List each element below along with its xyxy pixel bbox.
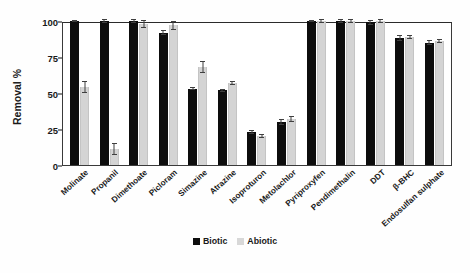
- bar-group: [390, 23, 420, 165]
- bar-biotic: [159, 33, 168, 165]
- error-bar: [321, 19, 322, 23]
- bar-group: [331, 23, 361, 165]
- bar-biotic: [395, 38, 404, 165]
- error-bar: [192, 87, 193, 90]
- bar-group: [213, 23, 243, 165]
- legend-swatch-icon: [237, 238, 244, 245]
- error-bar: [202, 61, 203, 73]
- y-tick-label-25: 25: [32, 125, 58, 136]
- error-bar: [173, 21, 174, 30]
- bar-biotic: [336, 21, 345, 165]
- bar-biotic: [188, 89, 197, 165]
- error-bar: [143, 20, 144, 29]
- legend-item: Abiotic: [237, 236, 277, 246]
- bar-group: [242, 23, 272, 165]
- error-bar: [340, 19, 341, 23]
- error-bar: [104, 19, 105, 23]
- x-tick-label: Molinate: [59, 168, 90, 197]
- bar-biotic: [425, 43, 434, 165]
- bar-biotic: [307, 21, 316, 165]
- bar-group: [183, 23, 213, 165]
- bar-abiotic: [376, 21, 385, 165]
- legend-item: Biotic: [193, 236, 227, 246]
- error-bar: [133, 19, 134, 23]
- error-bar: [74, 20, 75, 23]
- error-bar: [261, 134, 262, 138]
- bar-group: [65, 23, 95, 165]
- error-bar: [439, 39, 440, 43]
- bar-abiotic: [139, 24, 148, 165]
- bar-abiotic: [435, 41, 444, 165]
- bar-biotic: [277, 122, 286, 165]
- bar-abiotic: [198, 67, 207, 165]
- bar-group: [301, 23, 331, 165]
- error-bar: [370, 20, 371, 24]
- error-bar: [429, 40, 430, 44]
- error-bar: [114, 143, 115, 155]
- error-bar: [399, 35, 400, 41]
- bar-group: [95, 23, 125, 165]
- bar-abiotic: [257, 136, 266, 165]
- y-tick-label-50: 50: [32, 89, 58, 100]
- bar-abiotic: [287, 119, 296, 165]
- error-bar: [350, 19, 351, 23]
- y-tick-mark-0: [58, 166, 62, 167]
- x-tick-label: DDT: [368, 168, 387, 186]
- bar-abiotic: [80, 87, 89, 165]
- bar-abiotic: [346, 21, 355, 165]
- error-bar: [311, 20, 312, 23]
- y-tick-mark-100: [58, 22, 62, 23]
- bar-biotic: [247, 132, 256, 165]
- legend-label: Abiotic: [247, 236, 277, 246]
- error-bar: [232, 81, 233, 85]
- error-bar: [281, 119, 282, 125]
- y-axis-label: Removal %: [8, 52, 26, 142]
- y-axis-tick-labels: 0255075100: [26, 0, 58, 273]
- error-bar: [163, 30, 164, 36]
- y-tick-label-75: 75: [32, 53, 58, 64]
- error-bar: [222, 89, 223, 92]
- bar-group: [272, 23, 302, 165]
- bar-group: [360, 23, 390, 165]
- chart-legend: BioticAbiotic: [0, 236, 470, 246]
- y-tick-label-0: 0: [32, 161, 58, 172]
- bar-biotic: [366, 22, 375, 165]
- bar-group: [154, 23, 184, 165]
- x-axis-tick-labels: MolinatePropanilDimethoatePicloramSimazi…: [62, 168, 452, 238]
- y-tick-label-100: 100: [32, 17, 58, 28]
- legend-swatch-icon: [193, 238, 200, 245]
- plot-area: [62, 22, 452, 166]
- removal-percentage-bar-chart: Removal % 0255075100 MolinatePropanilDim…: [0, 0, 470, 273]
- x-tick-label: β-BHC: [392, 168, 417, 192]
- bar-groups: [63, 23, 451, 165]
- y-tick-mark-75: [58, 58, 62, 59]
- error-bar: [251, 130, 252, 134]
- bar-abiotic: [169, 25, 178, 165]
- bar-abiotic: [110, 149, 119, 165]
- y-tick-mark-25: [58, 130, 62, 131]
- error-bar: [380, 19, 381, 23]
- legend-label: Biotic: [203, 236, 227, 246]
- y-tick-mark-50: [58, 94, 62, 95]
- bar-biotic: [218, 90, 227, 165]
- bar-abiotic: [228, 83, 237, 165]
- x-tick-label: Simazine: [176, 168, 208, 198]
- bar-biotic: [100, 21, 109, 165]
- error-bar: [291, 116, 292, 122]
- error-bar: [409, 35, 410, 39]
- bar-group: [124, 23, 154, 165]
- error-bar: [84, 81, 85, 93]
- bar-abiotic: [317, 21, 326, 165]
- bar-abiotic: [405, 37, 414, 165]
- bar-biotic: [70, 21, 79, 165]
- bar-biotic: [129, 21, 138, 165]
- bar-group: [419, 23, 449, 165]
- x-tick-label: Picloram: [147, 168, 179, 198]
